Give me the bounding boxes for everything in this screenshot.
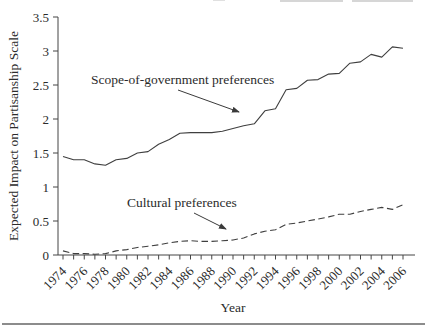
y-tick-label: 0.5 [33,214,49,229]
scope-annotation-arrow [178,90,239,112]
figure-page: 00.511.522.533.5197419761978198019821984… [0,0,427,332]
cropped-text-artifact [213,0,225,1]
y-tick-label: 0 [43,248,50,263]
cropped-text-artifact [352,0,413,2]
y-tick-label: 1 [43,180,50,195]
axes-layer: 00.511.522.533.5197419761978198019821984… [33,10,415,293]
cropped-text-artifact [280,0,343,2]
series-cultural [63,205,403,255]
cultural-annotation-arrow [194,213,226,229]
footer-rule [2,323,425,325]
y-tick-label: 1.5 [33,146,49,161]
y-axis-title: Expected Impact on Partisanship Scale [6,31,22,241]
x-tick-label: 2006 [380,263,409,292]
scope-annotation-label: Scope-of-government preferences [91,73,274,87]
y-tick-label: 3 [43,44,50,59]
x-axis-title: Year [221,300,246,316]
series-scope-of-government [63,47,403,165]
axis-spine [58,17,415,255]
line-chart: 00.511.522.533.5197419761978198019821984… [0,0,427,332]
y-tick-label: 3.5 [33,10,49,25]
y-tick-label: 2.5 [33,78,49,93]
cultural-annotation-label: Cultural preferences [127,196,237,210]
y-tick-label: 2 [43,112,50,127]
